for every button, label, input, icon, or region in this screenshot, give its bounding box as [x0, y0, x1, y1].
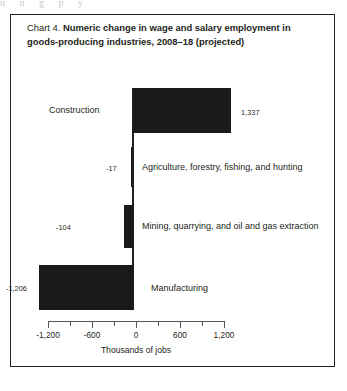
- bar-row: Mining, quarrying, and oil and gas extra…: [11, 195, 336, 253]
- x-tick-label: -600: [84, 330, 101, 340]
- x-tick-label: 0: [134, 330, 139, 340]
- chart-title-line1: Numeric change in wage and salary employ…: [63, 22, 291, 33]
- x-tick-major: [224, 321, 225, 328]
- x-tick-major: [48, 321, 49, 328]
- bar-row: Agriculture, forestry, fishing, and hunt…: [11, 137, 336, 195]
- bar-agriculture: [131, 147, 132, 187]
- chart-title: Chart 4. Numeric change in wage and sala…: [27, 21, 323, 48]
- x-tick-minor: [202, 321, 203, 326]
- x-axis-title: Thousands of jobs: [11, 345, 261, 355]
- value-label-mining: -104: [56, 223, 71, 232]
- x-tick-major: [92, 321, 93, 328]
- x-tick-major: [136, 321, 137, 328]
- x-tick-label: 600: [173, 330, 187, 340]
- clipped-text-above-chart: u u g p y: [0, 0, 347, 9]
- bar-construction: [133, 88, 231, 133]
- bar-row: Manufacturing -1,206: [11, 253, 336, 311]
- x-axis: -1,200 -600 0 600 1,200 Thousands of job…: [11, 311, 336, 367]
- plot-area: Construction 1,337 Agriculture, forestry…: [11, 75, 336, 311]
- chart-number: Chart 4.: [27, 22, 60, 33]
- bar-manufacturing: [39, 265, 133, 310]
- value-label-agriculture: -17: [106, 164, 117, 173]
- chart-title-line2: goods-producing industries, 2008–18 (pro…: [27, 36, 244, 47]
- bar-row: Construction 1,337: [11, 75, 336, 137]
- x-tick-minor: [114, 321, 115, 326]
- chart-frame: Chart 4. Numeric change in wage and sala…: [10, 14, 335, 367]
- value-label-construction: 1,337: [241, 108, 260, 117]
- x-tick-label: -1,200: [36, 330, 60, 340]
- category-label-agriculture: Agriculture, forestry, fishing, and hunt…: [142, 162, 302, 172]
- value-label-manufacturing: -1,206: [6, 284, 27, 293]
- category-label-mining: Mining, quarrying, and oil and gas extra…: [142, 221, 319, 231]
- x-tick-minor: [158, 321, 159, 326]
- category-label-manufacturing: Manufacturing: [151, 283, 208, 293]
- category-label-construction: Construction: [49, 105, 100, 115]
- x-tick-label: 1,200: [214, 330, 235, 340]
- x-tick-major: [180, 321, 181, 328]
- bar-mining: [124, 205, 133, 248]
- x-tick-minor: [70, 321, 71, 326]
